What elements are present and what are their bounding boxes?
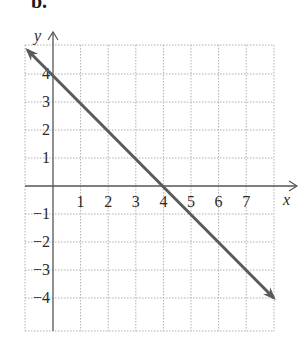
y-tick-label: 1 <box>42 149 50 166</box>
x-tick-label: 7 <box>242 193 250 210</box>
x-tick-label: 5 <box>187 193 195 210</box>
axes: xy <box>25 27 297 331</box>
x-axis-label: x <box>282 191 290 208</box>
coordinate-plane: xy 12345674321−1−2−3−4 <box>0 0 308 358</box>
x-tick-label: 2 <box>104 193 112 210</box>
line-y-equals-neg-x-plus-4 <box>27 50 273 298</box>
y-tick-label: 3 <box>42 93 50 110</box>
y-tick-label: −1 <box>33 205 50 222</box>
x-tick-label: 3 <box>132 193 140 210</box>
x-tick-label: 6 <box>215 193 223 210</box>
y-tick-label: −4 <box>33 289 50 306</box>
x-tick-label: 1 <box>77 193 85 210</box>
y-axis-label: y <box>32 27 42 45</box>
y-tick-label: 2 <box>42 121 50 138</box>
grid-lines <box>25 45 274 331</box>
x-tick-label: 4 <box>159 193 167 210</box>
y-tick-label: −3 <box>33 261 50 278</box>
line-series <box>25 48 275 300</box>
y-tick-label: −2 <box>33 233 50 250</box>
